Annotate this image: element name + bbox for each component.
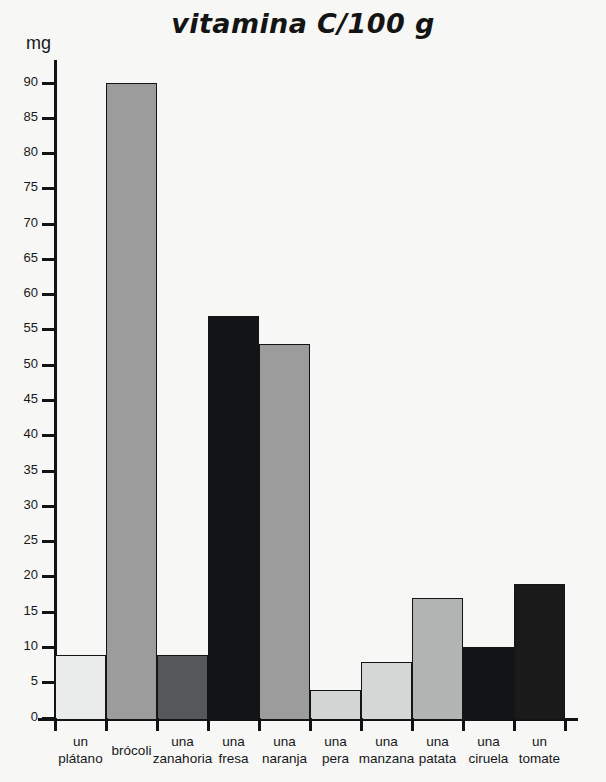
y-tick-label-20: 20	[2, 568, 38, 581]
x-axis-label: untomate	[508, 733, 571, 767]
bar	[55, 655, 106, 721]
y-tick-label-60: 60	[2, 286, 38, 299]
y-tick-label-10: 10	[2, 639, 38, 652]
y-tick-25	[42, 540, 55, 543]
y-tick-65	[42, 258, 55, 261]
x-tick-9	[513, 718, 516, 731]
y-tick-label-70: 70	[2, 216, 38, 229]
y-tick-35	[42, 470, 55, 473]
y-tick-label-80: 80	[2, 145, 38, 158]
bar	[310, 690, 361, 720]
y-tick-70	[42, 223, 55, 226]
y-tick-60	[42, 293, 55, 296]
y-tick-15	[42, 611, 55, 614]
bar	[208, 316, 259, 720]
y-tick-55	[42, 328, 55, 331]
y-tick-label-35: 35	[2, 463, 38, 476]
y-tick-label-75: 75	[2, 180, 38, 193]
y-tick-label-45: 45	[2, 392, 38, 405]
y-tick-label-30: 30	[2, 498, 38, 511]
bar	[259, 344, 310, 720]
y-tick-10	[42, 646, 55, 649]
y-tick-label-0: 0	[2, 710, 38, 723]
y-tick-85	[42, 117, 55, 120]
bar	[106, 83, 157, 720]
x-tick-2	[156, 718, 159, 731]
y-tick-80	[42, 152, 55, 155]
x-tick-6	[360, 718, 363, 731]
x-tick-0	[54, 718, 57, 731]
x-tick-3	[207, 718, 210, 731]
plot-area: 051015202530354045505560657075808590 unp…	[0, 0, 606, 782]
y-tick-label-40: 40	[2, 427, 38, 440]
bar	[157, 655, 208, 721]
x-tick-4	[258, 718, 261, 731]
x-tick-10	[564, 718, 567, 731]
x-tick-1	[105, 718, 108, 731]
x-tick-5	[309, 718, 312, 731]
bar	[514, 584, 565, 720]
y-tick-40	[42, 434, 55, 437]
vitamin-c-bar-chart: vitamina C/100 g mg 05101520253035404550…	[0, 0, 606, 782]
y-tick-5	[42, 681, 55, 684]
x-axis-label-line: tomate	[508, 750, 571, 767]
y-tick-label-15: 15	[2, 604, 38, 617]
x-tick-8	[462, 718, 465, 731]
y-tick-20	[42, 575, 55, 578]
y-tick-label-85: 85	[2, 110, 38, 123]
y-tick-45	[42, 399, 55, 402]
x-axis-label-line: un	[508, 733, 571, 750]
y-tick-label-65: 65	[2, 251, 38, 264]
bar	[412, 598, 463, 720]
y-tick-label-90: 90	[2, 75, 38, 88]
bars-group	[55, 0, 565, 782]
y-tick-90	[42, 82, 55, 85]
bar	[361, 662, 412, 720]
y-tick-label-55: 55	[2, 321, 38, 334]
y-tick-label-5: 5	[2, 674, 38, 687]
y-tick-label-50: 50	[2, 357, 38, 370]
y-tick-75	[42, 187, 55, 190]
y-tick-label-25: 25	[2, 533, 38, 546]
x-tick-7	[411, 718, 414, 731]
y-tick-30	[42, 505, 55, 508]
y-tick-50	[42, 364, 55, 367]
bar	[463, 647, 514, 720]
